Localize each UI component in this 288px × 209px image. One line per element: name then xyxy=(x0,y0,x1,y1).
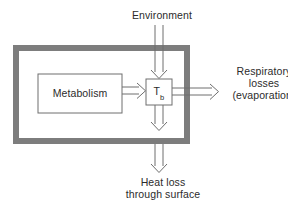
heat-balance-diagram: Environment Metabolism Tb Respiratory lo… xyxy=(0,0,288,209)
respiratory-arrow-icon xyxy=(172,84,219,100)
respiratory-losses-line-2: losses xyxy=(232,77,288,89)
environment-text: Environment xyxy=(132,9,192,21)
respiratory-losses-label: Respiratory losses (evaporation) xyxy=(232,65,288,101)
surface-heat-loss-arrow-icon xyxy=(151,144,167,173)
heat-loss-line-1: Heat loss xyxy=(126,176,200,188)
metabolism-text: Metabolism xyxy=(53,87,108,99)
respiratory-losses-line-1: Respiratory xyxy=(232,65,288,77)
heat-loss-line-2: through surface xyxy=(126,188,200,200)
body-temperature-label: Tb xyxy=(154,85,165,102)
metabolism-arrow-icon xyxy=(122,83,146,99)
body-temperature-symbol: T xyxy=(154,85,161,97)
body-temperature-subscript: b xyxy=(160,93,164,102)
internal-heat-flow-arrow-icon xyxy=(151,105,167,131)
metabolism-label: Metabolism xyxy=(53,87,108,99)
environment-label: Environment xyxy=(132,9,192,21)
heat-loss-label: Heat loss through surface xyxy=(126,176,200,200)
environment-arrow-icon xyxy=(151,25,167,79)
respiratory-losses-line-3: (evaporation) xyxy=(232,89,288,101)
